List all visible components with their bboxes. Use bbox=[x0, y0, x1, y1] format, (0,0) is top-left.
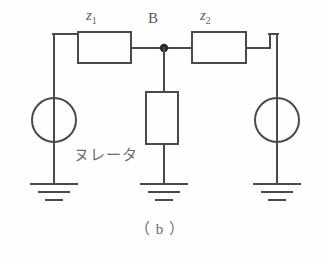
impedance-label-z1-subscript: 1 bbox=[92, 15, 97, 26]
nullator-box bbox=[146, 92, 178, 144]
impedance-box-z2 bbox=[192, 32, 246, 63]
impedance-box-z1 bbox=[78, 32, 131, 63]
impedance-label-z2: z2 bbox=[200, 8, 211, 26]
ground-left bbox=[31, 184, 77, 200]
ground-right bbox=[254, 184, 300, 200]
impedance-label-z2-subscript: 2 bbox=[206, 15, 211, 26]
impedance-label-z1: z1 bbox=[86, 8, 97, 26]
circuit-diagram-figure: z1 z2 B ヌレータ （ b ） bbox=[0, 0, 323, 259]
node-label-b: B bbox=[148, 11, 158, 26]
nullator-label: ヌレータ bbox=[74, 148, 138, 163]
ground-middle bbox=[141, 184, 187, 200]
figure-caption: （ b ） bbox=[135, 222, 185, 237]
